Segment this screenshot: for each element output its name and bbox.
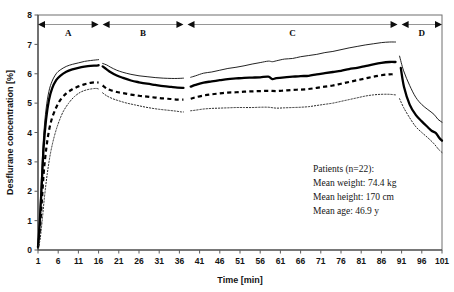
- x-tick-label: 11: [74, 256, 83, 266]
- x-tick-label: 86: [377, 256, 387, 266]
- y-tick-label: 0: [27, 245, 32, 255]
- phase-markers: ABCD: [38, 21, 442, 38]
- phase-arrow-left: [187, 21, 194, 28]
- x-tick-label: 16: [94, 256, 104, 266]
- x-tick-label: 56: [255, 256, 265, 266]
- y-tick-label: 4: [27, 128, 32, 138]
- x-tick-label: 91: [397, 256, 407, 266]
- x-tick-label: 61: [276, 256, 286, 266]
- x-tick-label: 21: [114, 256, 124, 266]
- desflurane-concentration-chart: 012345678 161116212631364146515661667176…: [0, 0, 454, 292]
- x-tick-label: 1: [36, 256, 41, 266]
- curve-upper-percentile: [103, 63, 184, 78]
- annotation-line: Mean age: 46.9 y: [313, 206, 379, 216]
- x-tick-label: 81: [356, 256, 366, 266]
- annotation-line: Mean height: 170 cm: [313, 192, 395, 202]
- figure-container: 012345678 161116212631364146515661667176…: [0, 0, 454, 292]
- plot-frame: [38, 15, 442, 250]
- annotation-line: Mean weight: 74.4 kg: [313, 178, 397, 188]
- curve-upper-percentile: [191, 42, 396, 77]
- x-tick-label: 36: [175, 256, 185, 266]
- phase-arrow-right: [92, 21, 99, 28]
- phase-label: D: [419, 28, 426, 38]
- x-tick-label: 76: [336, 256, 346, 266]
- y-tick-label: 8: [27, 10, 32, 20]
- data-curves: [38, 42, 442, 249]
- curve-mean: [191, 62, 396, 87]
- x-tick-label: 101: [435, 256, 449, 266]
- y-tick-label: 2: [27, 186, 32, 196]
- phase-arrow-right: [176, 21, 183, 28]
- curve-upper-percentile: [400, 56, 442, 122]
- phase-arrow-right: [435, 21, 442, 28]
- phase-label: A: [65, 28, 72, 38]
- x-tick-label: 46: [215, 256, 225, 266]
- phase-arrow-left: [103, 21, 110, 28]
- curve-mean: [38, 65, 99, 247]
- curve-lowest-percentile-dotted: [400, 99, 442, 153]
- x-tick-label: 71: [316, 256, 326, 266]
- x-axis-title: Time [min]: [217, 275, 262, 285]
- curve-lowest-percentile-dotted: [191, 94, 396, 111]
- curve-lowest-percentile-dotted: [103, 93, 184, 112]
- phase-arrow-left: [38, 21, 45, 28]
- y-tick-label: 6: [27, 69, 32, 79]
- y-tick-label: 3: [27, 157, 32, 167]
- x-tick-label: 41: [195, 256, 205, 266]
- y-tick-label: 5: [27, 98, 32, 108]
- x-tick-label: 31: [154, 256, 164, 266]
- curve-upper-percentile: [38, 60, 99, 246]
- phase-label: B: [140, 28, 146, 38]
- x-tick-label: 51: [235, 256, 245, 266]
- phase-arrow-left: [402, 21, 409, 28]
- phase-label: C: [289, 28, 296, 38]
- patient-info-annotation: Patients (n=22):Mean weight: 74.4 kgMean…: [313, 164, 397, 216]
- x-axis-ticks: 1611162126313641465156616671768186919610…: [36, 250, 450, 266]
- annotation-line: Patients (n=22):: [313, 164, 374, 175]
- x-tick-label: 96: [417, 256, 427, 266]
- y-tick-label: 1: [27, 216, 32, 226]
- x-tick-label: 26: [134, 256, 144, 266]
- phase-arrow-right: [391, 21, 398, 28]
- x-tick-label: 66: [296, 256, 306, 266]
- curve-lower-percentile-dashed: [191, 74, 396, 98]
- x-tick-label: 6: [56, 256, 61, 266]
- y-axis-ticks: 012345678: [27, 10, 38, 255]
- y-axis-title: Desflurane concentration [%]: [5, 70, 15, 195]
- y-tick-label: 7: [27, 40, 32, 50]
- plot-area-border: [38, 15, 442, 250]
